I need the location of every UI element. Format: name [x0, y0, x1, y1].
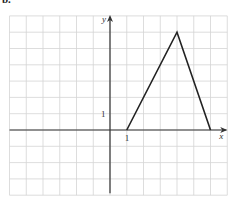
coordinate-plane: x y 1 1: [0, 0, 233, 205]
x-tick-label: 1: [125, 133, 130, 143]
x-axis-label: x: [218, 131, 223, 141]
axes: [10, 15, 228, 193]
y-tick-label: 1: [101, 109, 106, 119]
grid-lines: [10, 16, 228, 195]
y-axis-label: y: [101, 14, 106, 24]
